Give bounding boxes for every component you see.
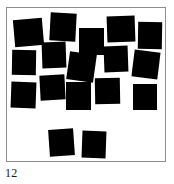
stimulus-square	[66, 82, 91, 110]
stimulus-square	[79, 28, 104, 55]
stimulus-square	[39, 74, 65, 100]
stimulus-square	[42, 42, 67, 69]
stimulus-square	[107, 16, 136, 43]
stimulus-square	[131, 50, 160, 80]
stimulus-square	[11, 82, 37, 109]
stimulus-square	[133, 84, 157, 110]
stimulus-square	[82, 131, 107, 159]
figure-frame-border	[6, 7, 166, 162]
stimulus-field	[7, 8, 165, 161]
stimulus-square	[95, 78, 120, 104]
stimulus-square	[49, 12, 76, 41]
stimulus-square	[12, 50, 36, 75]
figure-container: 12	[0, 0, 174, 184]
stimulus-square	[66, 51, 97, 82]
stimulus-square	[104, 46, 129, 73]
stimulus-square	[48, 128, 75, 157]
stimulus-square	[13, 18, 44, 47]
stimulus-square	[138, 22, 162, 49]
figure-caption: 12	[5, 166, 17, 180]
